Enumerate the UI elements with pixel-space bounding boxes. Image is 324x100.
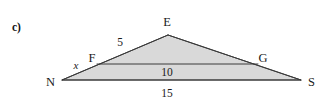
measure-label-FG: 10 — [161, 67, 173, 79]
vertex-label-S: S — [308, 76, 315, 89]
vertex-label-F: F — [89, 52, 96, 65]
vertex-label-N: N — [46, 76, 55, 89]
measure-label-NE: 5 — [117, 37, 123, 49]
measure-label-NS: 15 — [161, 88, 173, 100]
vertex-label-E: E — [163, 16, 171, 29]
geometry-figure: c) E N S F G 5 10 15 x — [0, 0, 324, 100]
vertex-label-G: G — [258, 52, 267, 65]
measure-label-NF-unknown: x — [74, 60, 79, 71]
